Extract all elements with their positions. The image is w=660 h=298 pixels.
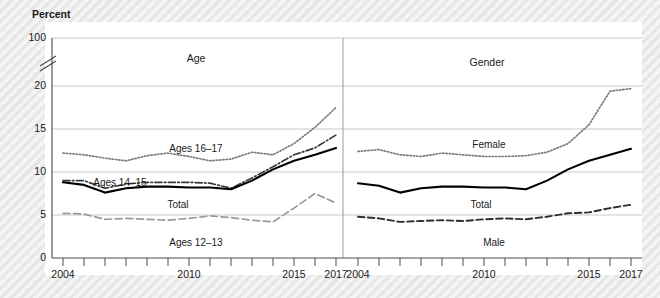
x-tick-left-2004: 2004 <box>51 268 75 280</box>
x-tick-labels-right: 2004 2010 2015 2017 <box>346 268 643 280</box>
x-tick-left-2015: 2015 <box>282 268 306 280</box>
y-axis-title: Percent <box>32 8 71 20</box>
y-tick-5: 5 <box>40 208 46 220</box>
chart-figure: Percent 100 20 15 10 5 0 <box>0 0 660 298</box>
panel-title-age: Age <box>187 52 206 64</box>
series-label-total-left: Total <box>167 199 188 210</box>
series-label-total-right: Total <box>470 199 491 210</box>
x-ticks-left <box>63 258 336 266</box>
x-tick-right-2010: 2010 <box>472 268 496 280</box>
series-line-total <box>358 149 631 193</box>
series-label-ages-16-17: Ages 16–17 <box>169 143 223 154</box>
y-tick-100: 100 <box>28 31 46 43</box>
y-tick-20: 20 <box>34 79 46 91</box>
y-tick-0: 0 <box>40 251 46 263</box>
gridlines <box>52 38 642 215</box>
gender-panel-series <box>358 89 631 222</box>
x-tick-right-2015: 2015 <box>577 268 601 280</box>
y-tick-labels: 100 20 15 10 5 0 <box>28 31 46 263</box>
series-label-female: Female <box>472 139 506 150</box>
series-line-ages-12-13 <box>63 194 336 222</box>
series-label-male: Male <box>483 237 505 248</box>
y-tick-10: 10 <box>34 165 46 177</box>
chart-svg: Percent 100 20 15 10 5 0 <box>0 0 660 298</box>
x-tick-labels-left: 2004 2010 2015 2017 <box>51 268 348 280</box>
y-axis-break-icon <box>40 56 56 71</box>
x-tick-left-2017: 2017 <box>324 268 348 280</box>
series-label-ages-14-15: Ages 14–15 <box>93 177 147 188</box>
x-ticks-right <box>358 258 631 266</box>
series-label-ages-12-13: Ages 12–13 <box>169 237 223 248</box>
age-panel-series <box>63 108 336 222</box>
x-tick-left-2010: 2010 <box>177 268 201 280</box>
y-tick-15: 15 <box>34 122 46 134</box>
panel-title-gender: Gender <box>469 56 505 68</box>
series-line-male <box>358 205 631 222</box>
x-tick-right-2017: 2017 <box>619 268 643 280</box>
x-tick-right-2004: 2004 <box>346 268 370 280</box>
